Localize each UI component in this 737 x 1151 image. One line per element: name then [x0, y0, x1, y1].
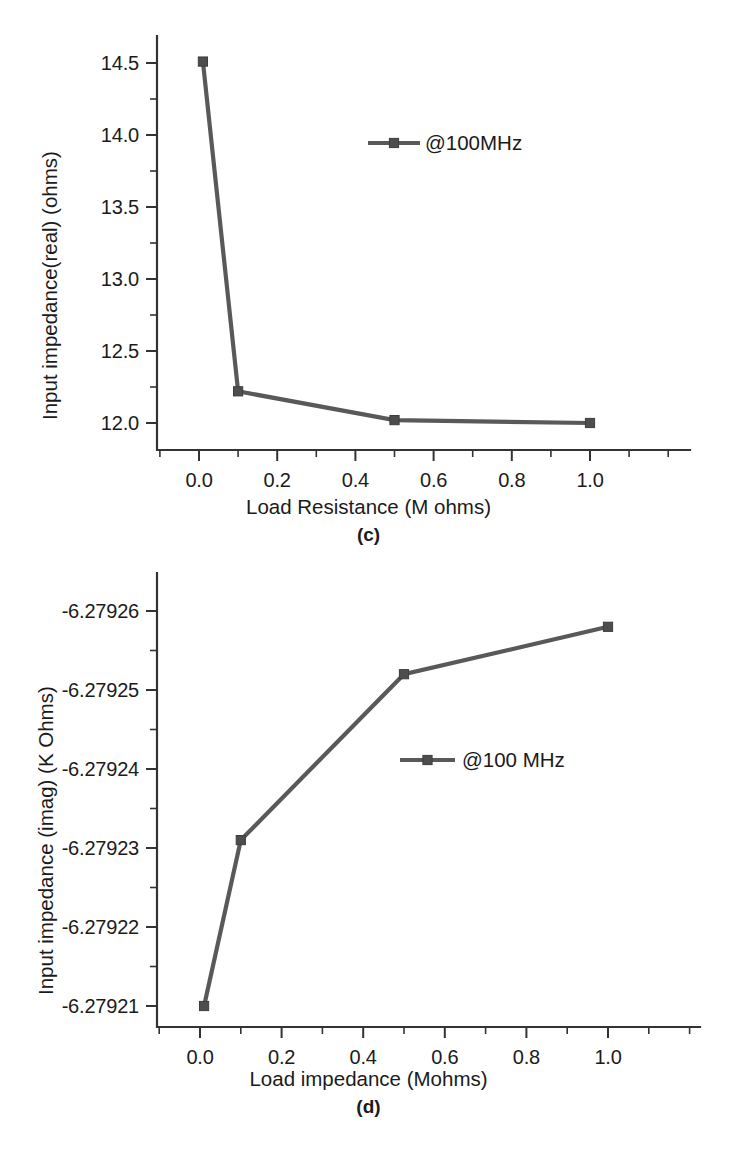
x-tick-label-d: 0.6	[431, 1046, 458, 1069]
data-point-marker-c	[390, 416, 399, 425]
y-tick-label-d: -6.27926	[0, 600, 139, 623]
panel-letter-c: (c)	[0, 524, 737, 546]
legend-label-c: @100MHz	[425, 131, 522, 155]
chart-panel-c: Input impedance(real) (ohms) Load Resist…	[0, 0, 737, 555]
y-tick-label-c: 12.0	[0, 412, 139, 435]
data-point-marker-d	[199, 1001, 208, 1010]
panel-letter-c-text: (c)	[357, 524, 380, 545]
legend-label-d: @100 MHz	[462, 748, 565, 772]
x-tick-label-c: 0.8	[498, 469, 525, 492]
x-axis-title-c: Load Resistance (M ohms)	[0, 495, 737, 519]
y-tick-label-c: 14.0	[0, 124, 139, 147]
x-tick-label-d: 0.8	[513, 1046, 540, 1069]
data-point-marker-c	[585, 418, 594, 427]
panel-letter-d: (d)	[0, 1096, 737, 1118]
x-tick-label-c: 1.0	[576, 469, 603, 492]
series-line-c-0	[203, 62, 590, 423]
data-point-marker-d	[399, 670, 408, 679]
x-axis-title-d: Load impedance (Mohms)	[0, 1067, 737, 1091]
x-tick-label-c: 0.2	[264, 469, 291, 492]
y-tick-label-c: 14.5	[0, 52, 139, 75]
legend-sample-marker-d	[423, 755, 432, 764]
axis-spine-d	[157, 573, 700, 1027]
x-tick-label-d: 0.4	[350, 1046, 377, 1069]
x-tick-label-d: 0.0	[186, 1046, 213, 1069]
figure-caption-strip	[0, 1134, 737, 1151]
chart-panel-d: Input impedance (imag) (K Ohms) Load imp…	[0, 545, 737, 1135]
y-tick-label-c: 13.0	[0, 268, 139, 291]
x-tick-label-d: 0.2	[268, 1046, 295, 1069]
figure-page: { "page": { "background": "#ffffff", "in…	[0, 0, 737, 1151]
data-point-marker-d	[236, 836, 245, 845]
y-tick-label-d: -6.27924	[0, 758, 139, 781]
y-tick-label-d: -6.27923	[0, 837, 139, 860]
data-point-marker-c	[234, 387, 243, 396]
x-tick-label-c: 0.4	[342, 469, 369, 492]
panel-letter-d-text: (d)	[356, 1096, 380, 1117]
data-point-marker-c	[198, 57, 207, 66]
y-tick-label-c: 13.5	[0, 196, 139, 219]
legend-sample-marker-c	[389, 138, 398, 147]
series-line-d-0	[204, 627, 608, 1006]
x-tick-label-c: 0.0	[185, 469, 212, 492]
x-tick-label-c: 0.6	[420, 469, 447, 492]
y-tick-label-d: -6.27921	[0, 995, 139, 1018]
y-tick-label-c: 12.5	[0, 340, 139, 363]
x-tick-label-d: 1.0	[594, 1046, 621, 1069]
y-tick-label-d: -6.27922	[0, 916, 139, 939]
data-point-marker-d	[603, 622, 612, 631]
y-tick-label-d: -6.27925	[0, 679, 139, 702]
